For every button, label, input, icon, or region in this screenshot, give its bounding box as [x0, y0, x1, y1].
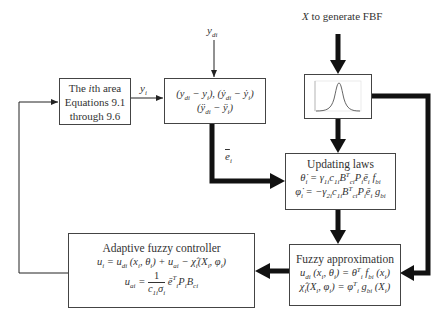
updating-laws-box: Updating laws θ̇i = γ1ic1iBTciPiēi fbi φ…: [285, 153, 396, 210]
fuzzy-approximation-box: Fuzzy approximation udi (xi, θi) = θTi f…: [289, 244, 401, 306]
yi-label: yi: [140, 82, 147, 94]
fbf-input-label: X to generate FBF: [302, 10, 382, 22]
updating-laws-title: Updating laws: [286, 157, 395, 171]
fuzzy-approximation-title: Fuzzy approximation: [290, 252, 400, 266]
ydi-label: ydi: [207, 24, 217, 36]
fbf-to-updating-arrow: [330, 139, 346, 153]
feedback-line: [19, 102, 68, 273]
gaussian-membership-plot: [305, 75, 371, 118]
fbf-input-arrow: [330, 60, 346, 74]
fuzzy-to-controller-arrow: [255, 263, 270, 279]
controller-title: Adaptive fuzzy controller: [69, 241, 254, 255]
fbf-box: [304, 74, 372, 119]
error-to-updating-arrow: [270, 173, 285, 189]
area-box: The ith area Equations 9.1 through 9.6: [59, 78, 131, 125]
error-box: (ydi − yi), (ẏdi − ẏi) (ÿdi − ÿi): [164, 78, 266, 124]
ei-label: ei: [225, 150, 232, 162]
adaptive-fuzzy-controller-box: Adaptive fuzzy controller ui = udi (xi, …: [68, 233, 255, 308]
updating-to-fuzzy-arrow: [330, 230, 346, 244]
fbf-to-fuzzy-arrow: [400, 265, 414, 281]
